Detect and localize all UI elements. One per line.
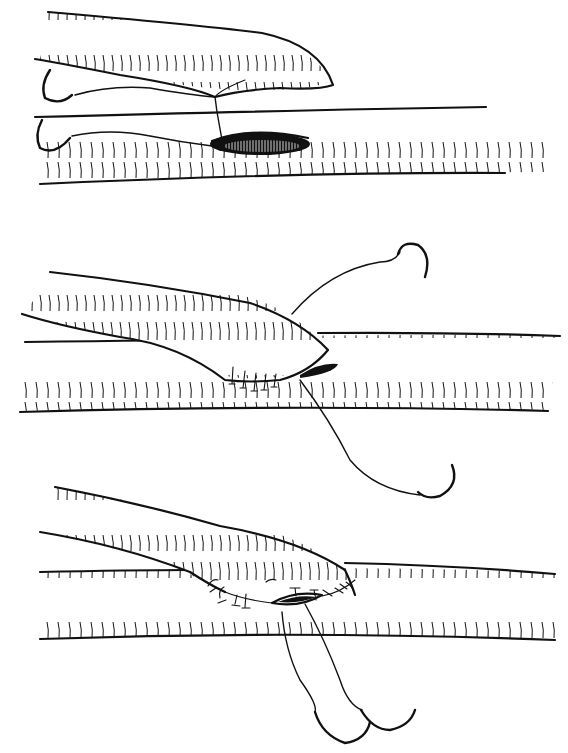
arteriotomy-opening	[210, 133, 310, 155]
panel-step-1	[35, 12, 545, 184]
panel-step-3	[40, 487, 555, 743]
suture-thread	[292, 252, 400, 314]
needle-icon	[43, 70, 72, 101]
graft-vessel	[35, 12, 333, 97]
panel-step-2	[20, 244, 560, 498]
needle-icon	[315, 712, 370, 743]
anastomosis-illustration	[0, 0, 568, 753]
needle-icon	[398, 244, 427, 277]
needle-icon	[418, 465, 454, 497]
